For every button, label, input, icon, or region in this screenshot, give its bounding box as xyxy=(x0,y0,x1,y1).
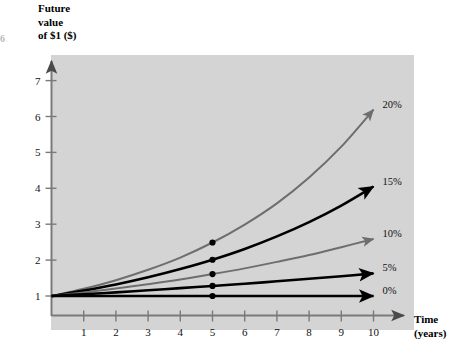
marker-dot-10pct xyxy=(209,271,215,277)
figure-root: 6 Future value of $1 ($) Time (years) 12… xyxy=(0,0,456,362)
marker-dot-20pct xyxy=(209,239,215,245)
marker-dot-5pct xyxy=(209,283,215,289)
marker-dot-15pct xyxy=(209,257,215,263)
marker-layer xyxy=(209,239,215,299)
curve-layer xyxy=(52,110,374,296)
marker-dot-0pct xyxy=(209,293,215,299)
chart-vector-layer xyxy=(0,0,456,362)
curve-20pct xyxy=(52,110,374,296)
